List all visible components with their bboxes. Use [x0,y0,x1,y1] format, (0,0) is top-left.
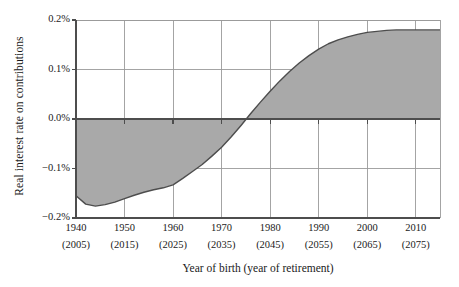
y-tick-label: −0.2% [24,211,70,222]
y-tick-label: −0.1% [24,162,70,173]
y-axis-title: Real interest rate on contributions [13,16,25,216]
x-axis-title: Year of birth (year of retirement) [76,262,440,274]
x-tick-label-year: 2010 [386,222,446,233]
y-tick-label: 0.0% [24,112,70,123]
y-tick-label: 0.1% [24,63,70,74]
x-tick-label-retirement-year: (2075) [386,239,446,250]
y-tick-label: 0.2% [24,13,70,24]
chart-container: 0.2%0.1%0.0%−0.1%−0.2% 1940(2005)1950(20… [0,0,459,287]
